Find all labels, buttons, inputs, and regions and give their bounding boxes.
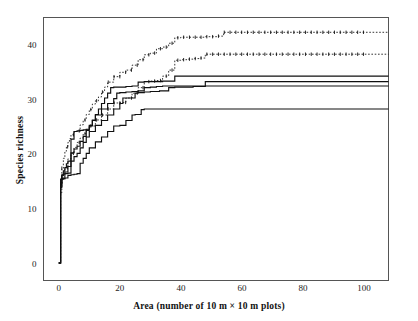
y-tick-10: 10 xyxy=(17,204,37,214)
chart-series-group xyxy=(59,31,389,263)
x-tick-40: 40 xyxy=(176,283,185,293)
series-markers-curve-1-dashed-upper xyxy=(62,31,364,170)
series-line-curve-5-solid-32 xyxy=(59,86,389,263)
series-line-curve-1-dashed-upper xyxy=(59,32,389,263)
species-area-chart-figure: Area (number of 10 m × 10 m plots) Speci… xyxy=(0,0,418,321)
x-tick-0: 0 xyxy=(57,283,62,293)
x-tick-100: 100 xyxy=(357,283,371,293)
y-tick-20: 20 xyxy=(17,149,37,159)
chart-plot-area xyxy=(0,0,418,321)
series-line-curve-3-solid-34 xyxy=(59,76,389,263)
x-tick-80: 80 xyxy=(299,283,308,293)
x-tick-20: 20 xyxy=(115,283,124,293)
series-line-curve-6-solid-28 xyxy=(59,109,389,263)
x-tick-60: 60 xyxy=(237,283,246,293)
plot-frame xyxy=(44,18,389,281)
x-axis-title: Area (number of 10 m × 10 m plots) xyxy=(0,301,418,311)
y-tick-40: 40 xyxy=(17,40,37,50)
y-tick-30: 30 xyxy=(17,95,37,105)
y-tick-0: 0 xyxy=(17,259,37,269)
